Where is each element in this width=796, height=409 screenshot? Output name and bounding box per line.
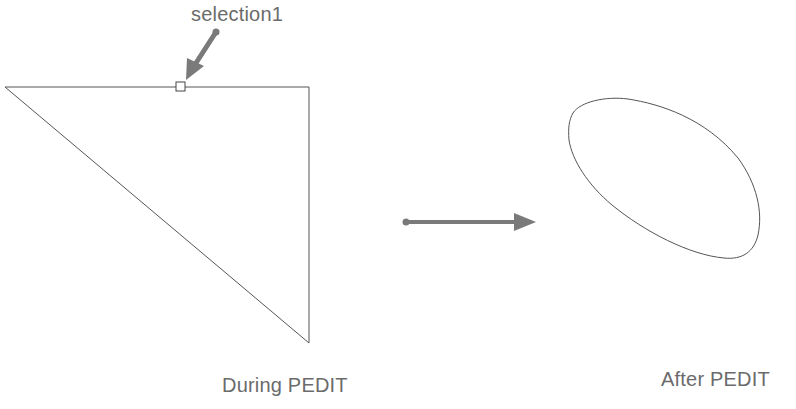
triangle-polyline: [5, 87, 309, 343]
selection-grip: [176, 82, 185, 91]
selection-label: selection1: [191, 3, 283, 26]
after-pedit-caption: After PEDIT: [661, 368, 770, 391]
transition-arrow-icon: [403, 213, 537, 231]
during-pedit-caption: During PEDIT: [222, 374, 348, 397]
diagram-canvas: [0, 0, 796, 409]
spline-shape: [569, 98, 760, 258]
callout-arrow-icon: [186, 29, 220, 81]
